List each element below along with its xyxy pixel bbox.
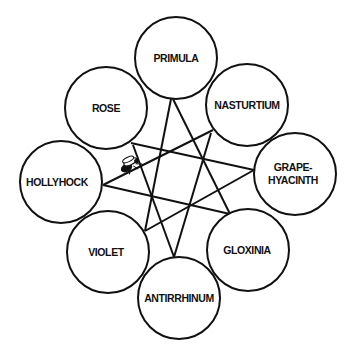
edge-hollyhock-gloxinia	[103, 185, 230, 214]
edge-rose-grape-hyacinth	[131, 143, 254, 170]
label-grape-hyacinth: GRAPE- HYACINTH	[268, 161, 318, 187]
label-gloxinia: GLOXINIA	[223, 244, 271, 257]
label-nasturtium: NASTURTIUM	[214, 99, 279, 112]
edge-nasturtium-antirrhinum	[174, 133, 211, 257]
label-antirrhinum: ANTIRRHINUM	[144, 292, 214, 305]
label-hollyhock: HOLLYHOCK	[26, 176, 88, 189]
label-violet: VIOLET	[88, 246, 124, 259]
label-rose: ROSE	[92, 102, 120, 115]
label-primula: PRIMULA	[153, 52, 198, 65]
